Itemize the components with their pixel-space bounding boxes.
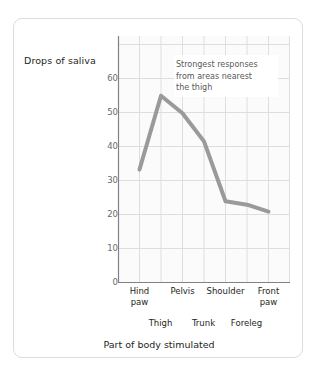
x-tick-label-front-paw: Front paw bbox=[247, 286, 290, 307]
x-tick-label-pelvis: Pelvis bbox=[161, 286, 204, 297]
x-tick-label-foreleg: Foreleg bbox=[225, 318, 268, 329]
saliva-response-line-chart: Drops of saliva 60 50 40 30 20 10 0 bbox=[14, 19, 304, 359]
x-tick-label-hind-paw-line1: Hind bbox=[118, 286, 161, 297]
x-tick-label-thigh: Thigh bbox=[139, 318, 182, 329]
x-axis-title: Part of body stimulated bbox=[14, 339, 304, 350]
x-tick-label-hind-paw: Hind paw bbox=[118, 286, 161, 307]
x-tick-label-trunk: Trunk bbox=[182, 318, 225, 329]
annotation-line-3: the thigh bbox=[176, 82, 276, 94]
annotation-line-2: from areas nearest bbox=[176, 71, 276, 83]
x-tick-label-shoulder: Shoulder bbox=[204, 286, 247, 297]
chart-annotation: Strongest responses from areas nearest t… bbox=[174, 55, 278, 97]
x-tick-label-hind-paw-line2: paw bbox=[118, 297, 161, 308]
x-tick-label-front-paw-line2: paw bbox=[247, 297, 290, 308]
annotation-line-1: Strongest responses bbox=[176, 59, 276, 71]
figure-card: Drops of saliva 60 50 40 30 20 10 0 bbox=[13, 18, 303, 358]
x-tick-label-front-paw-line1: Front bbox=[247, 286, 290, 297]
